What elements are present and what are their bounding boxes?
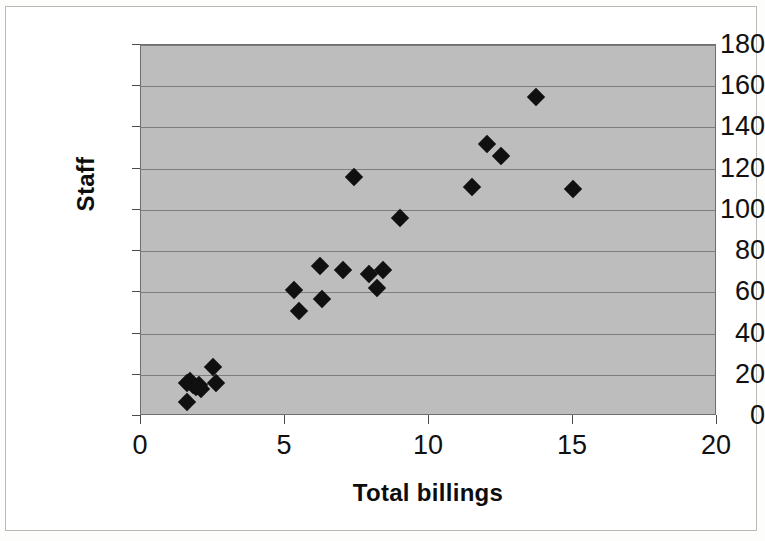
data-point — [564, 180, 582, 198]
x-axis-tick — [572, 415, 573, 424]
plot-area — [140, 44, 716, 415]
data-point — [204, 357, 222, 375]
y-axis-tick — [132, 291, 140, 292]
gridline — [141, 45, 715, 46]
x-axis-tick-label: 0 — [100, 432, 180, 459]
y-axis-tick — [132, 44, 140, 45]
data-point — [374, 260, 392, 278]
x-axis-title: Total billings — [140, 479, 716, 507]
y-axis-tick — [132, 85, 140, 86]
x-axis-tick-label: 5 — [244, 432, 324, 459]
data-point — [333, 260, 351, 278]
y-axis-title: Staff — [72, 114, 100, 254]
data-point — [345, 168, 363, 186]
y-axis-tick-label: 180 — [669, 31, 765, 58]
y-axis-tick-label: 80 — [669, 237, 765, 264]
y-axis-tick — [132, 126, 140, 127]
x-axis-tick — [428, 415, 429, 424]
data-point — [178, 392, 196, 410]
data-point — [290, 302, 308, 320]
y-axis-tick — [132, 168, 140, 169]
gridline — [141, 210, 715, 211]
x-axis-tick-label: 15 — [532, 432, 612, 459]
data-point — [477, 135, 495, 153]
y-axis-tick-label: 40 — [669, 319, 765, 346]
x-axis-tick — [284, 415, 285, 424]
y-axis-tick — [132, 250, 140, 251]
data-point — [526, 87, 544, 105]
data-point — [492, 147, 510, 165]
gridline — [141, 292, 715, 293]
x-axis-tick — [140, 415, 141, 424]
gridline — [141, 251, 715, 252]
data-point — [284, 281, 302, 299]
y-axis-tick-label: 140 — [669, 113, 765, 140]
gridline — [141, 334, 715, 335]
data-point — [368, 279, 386, 297]
y-axis-tick — [132, 374, 140, 375]
gridline — [141, 375, 715, 376]
y-axis-tick — [132, 209, 140, 210]
y-axis-tick-label: 100 — [669, 195, 765, 222]
gridline — [141, 86, 715, 87]
y-axis-tick-label: 0 — [669, 402, 765, 429]
x-axis-tick — [716, 415, 717, 424]
data-point — [463, 178, 481, 196]
gridline — [141, 127, 715, 128]
gridline — [141, 169, 715, 170]
data-point — [310, 256, 328, 274]
y-axis-tick-label: 160 — [669, 72, 765, 99]
y-axis-tick — [132, 333, 140, 334]
y-axis-tick — [132, 415, 140, 416]
y-axis-tick-label: 20 — [669, 360, 765, 387]
x-axis-tick-label: 10 — [388, 432, 468, 459]
y-axis-tick-label: 120 — [669, 154, 765, 181]
y-axis-tick-label: 60 — [669, 278, 765, 305]
scatter-plot-screenshot: Staff 020406080100120140160180 05101520 … — [0, 0, 765, 541]
data-point — [391, 209, 409, 227]
x-axis-tick-label: 20 — [676, 432, 756, 459]
